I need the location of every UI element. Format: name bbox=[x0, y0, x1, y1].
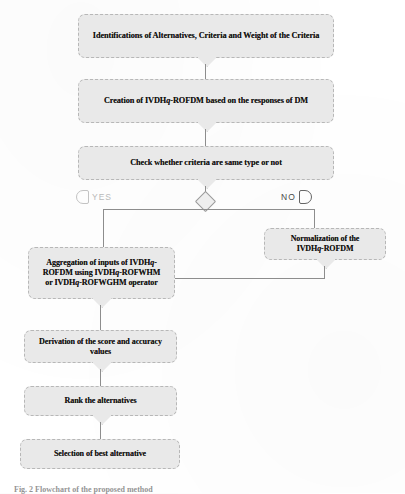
check-criteria-box: Check whether criteria are same type or … bbox=[78, 146, 334, 180]
normalization-box-notch bbox=[316, 259, 336, 269]
connector-derivation-to-rank bbox=[100, 369, 101, 386]
aggregation-box-notch bbox=[92, 298, 112, 308]
selection-box-label: Selection of best alternative bbox=[26, 449, 174, 459]
connector-normalization-merge bbox=[175, 278, 325, 279]
aggregation-line2-b: -ROFWHM bbox=[119, 268, 160, 277]
normalization-box: Normalization of the IVDHq-ROFDM bbox=[264, 228, 386, 260]
connector-no-drop bbox=[314, 209, 315, 228]
rank-box: Rank the alternatives bbox=[24, 386, 177, 416]
identification-box: Identifications of Alternatives, Criteri… bbox=[78, 14, 334, 58]
connector-identification-to-creation bbox=[205, 64, 206, 79]
no-label-text: NO bbox=[281, 192, 296, 202]
derivation-box-notch bbox=[92, 362, 112, 372]
aggregation-box-label: Aggregation of inputs of IVDHq- ROFDM us… bbox=[34, 258, 169, 288]
normalization-line2-a: IVDH bbox=[297, 244, 318, 253]
rank-box-label: Rank the alternatives bbox=[30, 396, 171, 406]
aggregation-line3-a: or IVDH bbox=[45, 278, 75, 287]
creation-text-a: Creation of IVDH bbox=[104, 96, 166, 105]
normalization-box-label: Normalization of the IVDHq-ROFDM bbox=[270, 234, 380, 254]
connector-yes-drop bbox=[103, 209, 104, 247]
connector-normalization-down bbox=[324, 266, 325, 278]
identification-box-label: Identifications of Alternatives, Criteri… bbox=[84, 31, 328, 41]
selection-box: Selection of best alternative bbox=[20, 439, 180, 469]
branch-label-yes: YES bbox=[76, 190, 112, 204]
aggregation-line1-b: - bbox=[154, 258, 157, 267]
yes-flag-icon bbox=[76, 190, 89, 204]
connector-creation-to-check bbox=[205, 129, 206, 146]
creation-box: Creation of IVDHq-ROFDM based on the res… bbox=[78, 79, 334, 123]
check-criteria-box-notch bbox=[197, 179, 217, 189]
connector-aggregation-to-derivation bbox=[100, 305, 101, 330]
aggregation-box: Aggregation of inputs of IVDHq- ROFDM us… bbox=[28, 247, 175, 299]
aggregation-line3-b: -ROFWGHM operator bbox=[79, 278, 158, 287]
yes-label-text: YES bbox=[92, 192, 112, 202]
aggregation-line1-a: Aggregation of inputs of IVDH bbox=[46, 258, 150, 267]
connector-rank-to-selection bbox=[100, 422, 101, 439]
aggregation-line2-a: ROFDM using IVDH bbox=[43, 268, 116, 277]
creation-text-b: -ROFDM based on the responses of DM bbox=[170, 96, 308, 105]
creation-box-notch bbox=[197, 122, 217, 132]
identification-box-notch bbox=[197, 57, 217, 67]
branch-label-no: NO bbox=[281, 190, 312, 204]
no-flag-icon bbox=[299, 190, 312, 204]
check-criteria-box-label: Check whether criteria are same type or … bbox=[84, 158, 328, 168]
figure-caption: Fig. 2 Flowchart of the proposed method bbox=[14, 485, 153, 494]
creation-box-label: Creation of IVDHq-ROFDM based on the res… bbox=[84, 96, 328, 106]
derivation-box: Derivation of the score and accuracy val… bbox=[24, 330, 177, 363]
rank-box-notch bbox=[92, 415, 112, 425]
top-cropped-text bbox=[150, 0, 270, 2]
normalization-line2-b: -ROFDM bbox=[321, 244, 353, 253]
normalization-line1: Normalization of the bbox=[291, 234, 360, 243]
connector-decision-split bbox=[103, 209, 315, 210]
derivation-box-label: Derivation of the score and accuracy val… bbox=[30, 337, 171, 357]
